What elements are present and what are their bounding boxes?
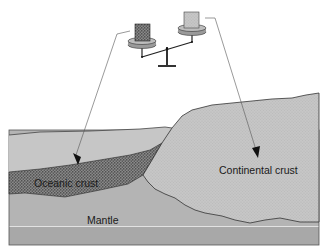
- oceanic-weight-pan: [128, 24, 156, 49]
- isostasy-diagram: Oceanic crust Continental crust Mantle: [0, 0, 327, 252]
- continental-weight-pan: [178, 12, 206, 36]
- mantle-label: Mantle: [87, 214, 119, 226]
- balance-scale-icon: [128, 12, 206, 67]
- continental-crust-label: Continental crust: [219, 164, 298, 176]
- oceanic-crust-label: Oceanic crust: [34, 177, 98, 189]
